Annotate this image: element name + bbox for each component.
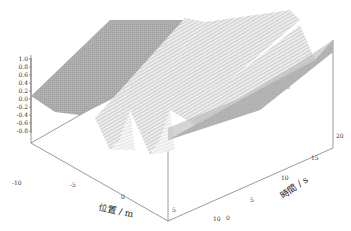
z-tick: -0.4	[16, 111, 28, 118]
surface-plot: 1.0 0.8 0.6 0.4 0.2 0.0 -0.2 -0.4 -0.6 -…	[0, 0, 351, 231]
z-tick: -0.6	[16, 119, 28, 126]
z-tick: 0.6	[18, 71, 28, 78]
z-tick: 0.8	[18, 63, 28, 70]
x-tick: 0	[121, 193, 125, 200]
x-tick: 5	[172, 206, 176, 213]
z-tick: -0.8	[16, 127, 28, 134]
z-tick: 1.0	[18, 55, 28, 62]
y-tick: 5	[250, 196, 254, 203]
y-tick: 0	[226, 214, 230, 221]
x-axis-label: 位置 / m	[98, 201, 135, 219]
surface	[31, 10, 333, 155]
z-tick: 0.0	[18, 95, 28, 102]
z-tick: 0.2	[18, 87, 28, 94]
x-tick: -10	[12, 179, 22, 186]
y-tick: 20	[336, 132, 344, 139]
y-tick: 15	[311, 154, 319, 161]
z-tick: 0.4	[18, 79, 28, 86]
x-tick: -5	[70, 181, 76, 188]
y-tick: 10	[281, 174, 289, 181]
y-axis: 0 5 10 15 20 時間 / s	[226, 132, 344, 221]
x-tick: 10	[213, 215, 221, 222]
x-axis: -10 -5 0 5 10 位置 / m	[12, 179, 221, 222]
z-tick: -0.2	[16, 103, 28, 110]
z-axis: 1.0 0.8 0.6 0.4 0.2 0.0 -0.2 -0.4 -0.6 -…	[16, 55, 31, 134]
